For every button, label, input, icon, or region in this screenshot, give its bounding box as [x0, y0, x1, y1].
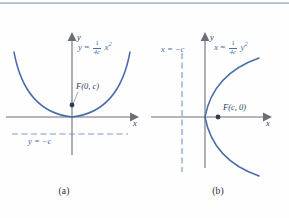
- fraction-numerator-a: 1: [93, 40, 102, 47]
- equation-lhs-a: y: [78, 42, 82, 52]
- focus-point-b: [216, 115, 221, 120]
- x-axis-label-b: x: [266, 119, 270, 128]
- figure-panel-a: y x y = 1 4c x2 F(0, c) y = −c (a): [0, 0, 144, 190]
- fraction-numerator-b: 1: [229, 40, 238, 47]
- equation-equals-a: =: [84, 42, 89, 52]
- equation-fraction-b: 1 4c: [229, 40, 238, 57]
- equation-fraction-a: 1 4c: [93, 40, 102, 57]
- focus-label-a: F(0, c): [76, 82, 99, 91]
- equation-exponent-a: 2: [108, 40, 111, 47]
- focus-leader-a: [74, 92, 79, 103]
- focus-point-a: [70, 103, 75, 108]
- figure-panel-b: y x x = 1 4c y2 F(c, 0) x = −c (b): [145, 0, 289, 190]
- panel-caption-a: (a): [0, 186, 136, 196]
- y-axis-b: [201, 32, 210, 168]
- equation-lhs-b: x: [214, 42, 218, 52]
- fraction-denominator-b: 4c: [229, 49, 238, 57]
- equation-exponent-b: 2: [244, 40, 247, 47]
- x-axis-b: [151, 113, 272, 122]
- parabola-plot-a: [0, 0, 144, 190]
- equation-label-a: y = 1 4c x2: [78, 40, 112, 57]
- directrix-label-b: x = −c: [161, 45, 184, 54]
- panel-caption-b: (b): [146, 186, 289, 196]
- directrix-label-a: y = −c: [28, 137, 51, 146]
- equation-label-b: x = 1 4c y2: [214, 40, 248, 57]
- parabola-plot-b: [145, 0, 289, 190]
- fraction-denominator-a: 4c: [93, 49, 102, 57]
- y-axis-a: [68, 32, 77, 155]
- equation-equals-b: =: [220, 42, 225, 52]
- x-axis-label-a: x: [133, 119, 137, 128]
- figure-root: y x y = 1 4c x2 F(0, c) y = −c (a): [0, 0, 289, 218]
- focus-label-b: F(c, 0): [223, 103, 246, 112]
